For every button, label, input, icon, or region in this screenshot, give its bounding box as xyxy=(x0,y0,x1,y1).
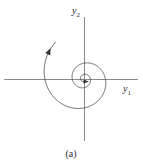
spiral-trajectory xyxy=(44,42,106,108)
phase-portrait-figure: y1 y2 (a) xyxy=(0,0,143,164)
phase-portrait-svg: y1 y2 (a) xyxy=(0,0,143,164)
y-axis-label: y2 xyxy=(71,5,80,19)
y-axis-label-subscript: 2 xyxy=(76,11,80,19)
inner-arrow-icon xyxy=(83,79,88,83)
x-axis-label: y1 xyxy=(122,83,131,97)
figure-caption: (a) xyxy=(65,148,76,160)
x-axis-label-subscript: 1 xyxy=(127,89,131,97)
